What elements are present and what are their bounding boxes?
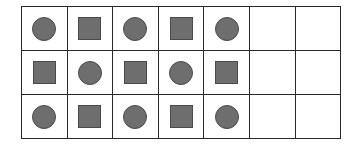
grid-cell-r1-c7: [296, 7, 342, 51]
square-shape: [170, 105, 193, 128]
grid-cell-r2-c2: [68, 51, 114, 95]
grid-cell-r2-c3: [113, 51, 159, 95]
grid-cell-r3-c1: [22, 95, 68, 139]
circle-shape: [215, 105, 239, 129]
square-shape: [124, 61, 147, 84]
grid-cell-r3-c4: [159, 95, 205, 139]
square-shape: [78, 17, 101, 40]
circle-shape: [78, 61, 102, 85]
grid-cell-r1-c1: [22, 7, 68, 51]
grid-cell-r2-c5: [204, 51, 250, 95]
grid-cell-r1-c5: [204, 7, 250, 51]
square-shape: [215, 61, 238, 84]
circle-shape: [215, 17, 239, 41]
circle-shape: [32, 105, 56, 129]
grid-cell-r2-c7: [296, 51, 342, 95]
grid-cell-r1-c3: [113, 7, 159, 51]
circle-shape: [123, 17, 147, 41]
grid-cell-r3-c7: [296, 95, 342, 139]
square-shape: [170, 17, 193, 40]
grid-cell-r1-c2: [68, 7, 114, 51]
grid-cell-r1-c4: [159, 7, 205, 51]
square-shape: [78, 105, 101, 128]
grid-cell-r1-c6: [250, 7, 296, 51]
grid-cell-r2-c1: [22, 51, 68, 95]
grid-cell-r2-c6: [250, 51, 296, 95]
square-shape: [33, 61, 56, 84]
pattern-grid: [21, 6, 341, 139]
grid-cell-r2-c4: [159, 51, 205, 95]
circle-shape: [169, 61, 193, 85]
grid-cell-r3-c3: [113, 95, 159, 139]
circle-shape: [123, 105, 147, 129]
circle-shape: [32, 17, 56, 41]
grid-cell-r3-c5: [204, 95, 250, 139]
grid-cell-r3-c2: [68, 95, 114, 139]
grid-cell-r3-c6: [250, 95, 296, 139]
